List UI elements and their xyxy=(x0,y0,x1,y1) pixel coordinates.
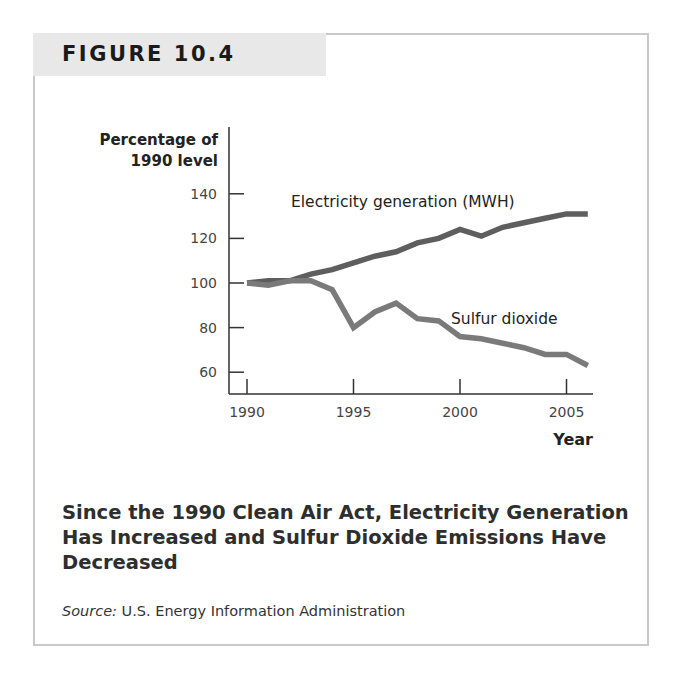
y-tick-label: 60 xyxy=(199,364,217,380)
x-tick-label: 1995 xyxy=(336,404,372,420)
y-tick-label: 140 xyxy=(190,186,217,202)
x-axis-title: Year xyxy=(552,430,593,449)
x-ticks: 1990199520002005 xyxy=(229,404,584,420)
y-ticks: 6080100120140 xyxy=(190,186,217,380)
y-tick-label: 80 xyxy=(199,320,217,336)
series-label-electricity: Electricity generation (MWH) xyxy=(291,193,515,211)
series-lines xyxy=(247,214,588,366)
y-axis-title-line-1: Percentage of xyxy=(99,131,218,149)
y-tick-label: 100 xyxy=(190,275,217,291)
line-chart: Percentage of 1990 level 6080100120140 1… xyxy=(0,0,675,684)
y-tick-label: 120 xyxy=(190,230,217,246)
x-tick-label: 2005 xyxy=(549,404,585,420)
source-label: Source: xyxy=(62,603,117,619)
source-text: U.S. Energy Information Administration xyxy=(117,603,405,619)
y-axis-title-line-2: 1990 level xyxy=(131,152,218,170)
figure-caption: Since the 1990 Clean Air Act, Electricit… xyxy=(62,500,632,575)
figure-source: Source: U.S. Energy Information Administ… xyxy=(62,603,405,619)
x-tick-label: 2000 xyxy=(442,404,478,420)
x-tick-label: 1990 xyxy=(229,404,265,420)
y-axis-title: Percentage of 1990 level xyxy=(99,131,218,170)
series-label-sulfur-dioxide: Sulfur dioxide xyxy=(451,310,558,328)
electricity-generation-line xyxy=(247,214,588,283)
